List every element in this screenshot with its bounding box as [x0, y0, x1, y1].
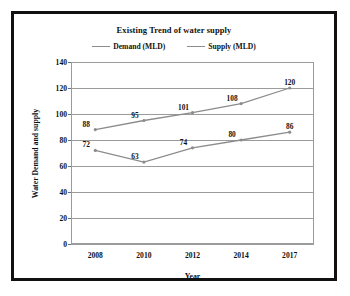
y-axis-tick-label: 100: [56, 110, 67, 119]
chart-border-frame: Existing Trend of water supply Demand (M…: [11, 11, 337, 281]
data-point-label: 95: [131, 110, 138, 119]
data-point-label: 108: [227, 93, 238, 102]
data-point-marker[interactable]: [288, 131, 291, 134]
y-axis-tick-label: 60: [59, 162, 67, 171]
x-axis-tick-label: 2017: [282, 251, 297, 260]
data-point-marker[interactable]: [94, 149, 97, 152]
data-point-label: 101: [178, 102, 189, 111]
chart-title: Existing Trend of water supply: [14, 25, 334, 35]
data-point-label: 120: [284, 78, 295, 87]
data-point-marker[interactable]: [191, 111, 194, 114]
x-axis-title: Year: [71, 272, 314, 281]
data-point-marker[interactable]: [288, 86, 291, 89]
y-axis-tick-label: 140: [56, 58, 67, 67]
y-axis-tick-label: 80: [59, 136, 67, 145]
y-axis-tick-label: 40: [59, 188, 67, 197]
legend-swatch-supply: [187, 46, 205, 47]
y-axis-tick-label: 20: [59, 214, 67, 223]
data-point-label: 72: [83, 140, 90, 149]
legend-item-demand[interactable]: Demand (MLD): [92, 42, 165, 51]
data-point-label: 80: [228, 130, 235, 139]
plot-area: 020406080100120140 20082010201220142017 …: [71, 62, 314, 244]
data-point-marker[interactable]: [142, 119, 145, 122]
data-point-marker[interactable]: [142, 161, 145, 164]
legend-item-supply[interactable]: Supply (MLD): [187, 42, 255, 51]
series-line-demand: [95, 88, 289, 130]
y-axis-tick-label: 0: [63, 240, 67, 249]
y-axis-title-text: Water Demand and supply: [32, 108, 41, 197]
gridline: [71, 244, 314, 245]
y-axis-tick-mark: [68, 244, 71, 245]
x-axis-tick-label: 2008: [88, 251, 103, 260]
data-point-marker[interactable]: [240, 138, 243, 141]
data-point-marker[interactable]: [191, 146, 194, 149]
x-axis-tick-label: 2010: [136, 251, 151, 260]
legend-label-supply: Supply (MLD): [208, 42, 255, 51]
legend-label-demand: Demand (MLD): [113, 42, 165, 51]
y-axis-tick-label: 120: [56, 84, 67, 93]
y-axis-title: Water Demand and supply: [30, 62, 42, 244]
data-point-label: 74: [180, 137, 187, 146]
data-point-label: 88: [83, 119, 90, 128]
data-point-marker[interactable]: [94, 128, 97, 131]
data-point-label: 86: [286, 122, 293, 131]
data-point-marker[interactable]: [240, 102, 243, 105]
x-axis-tick-label: 2012: [185, 251, 200, 260]
series-layer: [71, 62, 314, 244]
legend-swatch-demand: [92, 46, 110, 47]
x-axis-tick-label: 2014: [234, 251, 249, 260]
data-point-label: 63: [131, 152, 138, 161]
chart-legend: Demand (MLD) Supply (MLD): [14, 42, 334, 51]
